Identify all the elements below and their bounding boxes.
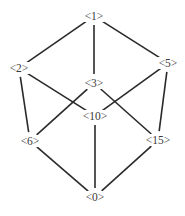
node-6: <6> [20,135,41,147]
edge-3-15 [101,89,152,134]
edge-5-15 [159,72,167,131]
edge-6-0 [37,147,88,191]
node-1: <1> [84,10,105,22]
edge-15-0 [102,146,152,191]
node-2: <2> [9,62,30,74]
edge-2-6 [20,77,28,132]
edges-layer [0,0,185,216]
edge-5-10 [102,68,160,110]
node-5: <5> [158,57,179,69]
edge-2-10 [27,73,88,111]
node-0: <0> [85,191,106,203]
edge-1-5 [102,21,161,58]
edge-1-2 [26,21,86,63]
node-10: <10> [82,110,108,122]
node-3: <3> [84,77,105,89]
subgroup-lattice-diagram: <1><2><5><3><10><6><15><0> [0,0,185,216]
node-15: <15> [145,134,171,146]
